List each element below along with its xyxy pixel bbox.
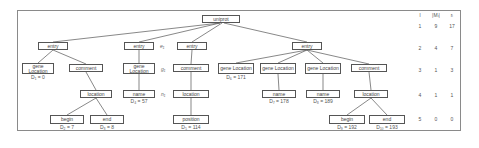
- tree-node-loc1: location: [80, 90, 112, 98]
- node-side-label: g₁: [161, 66, 165, 72]
- tree-node-e3: entry: [177, 42, 207, 50]
- table-cell: 7: [444, 45, 460, 51]
- tree-node-n1: name: [123, 90, 155, 98]
- tree-node-n2: name: [262, 90, 296, 98]
- node-label: comment: [76, 66, 97, 71]
- table-cell: 1: [412, 23, 428, 29]
- tree-node-e1: entry: [38, 42, 68, 50]
- node-label: name: [273, 92, 286, 97]
- tree-node-c2: comment: [173, 64, 209, 72]
- document-offset-label: D₁ = 0: [22, 75, 54, 80]
- node-label: comment: [359, 66, 380, 71]
- table-cell: 0: [444, 116, 460, 122]
- node-side-label: e₁: [160, 43, 164, 49]
- table-cell: 2: [412, 45, 428, 51]
- table-header: |Mₗ|: [428, 12, 444, 18]
- table-cell: 9: [428, 23, 444, 29]
- tree-node-loc2: location: [173, 90, 209, 98]
- node-label: name: [133, 92, 146, 97]
- tree-node-b1: begin: [50, 115, 84, 124]
- tree-node-loc3: location: [354, 90, 388, 98]
- tree-node-c3: comment: [351, 64, 387, 72]
- tree-node-gl3: gene Location: [218, 63, 254, 74]
- node-label: entry: [133, 44, 144, 49]
- node-label: entry: [186, 44, 197, 49]
- document-offset-label: D₇ = 178: [262, 99, 296, 104]
- tree-node-root: uniprot: [202, 15, 240, 23]
- node-label: location: [87, 92, 104, 97]
- node-label: position: [182, 117, 199, 122]
- document-offset-label: D₉ = 192: [329, 125, 365, 130]
- table-header: l: [412, 12, 428, 18]
- table-cell: 0: [428, 116, 444, 122]
- table-cell: 1: [428, 92, 444, 98]
- table-cell: 1: [428, 67, 444, 73]
- node-label: location: [182, 92, 199, 97]
- node-label: location: [362, 92, 379, 97]
- node-label: entry: [47, 44, 58, 49]
- document-offset-label: D₁₀ = 193: [369, 125, 405, 130]
- tree-node-gl5: gene Location: [305, 63, 341, 74]
- table-cell: 17: [444, 23, 460, 29]
- document-offset-label: D₅ = 114: [173, 125, 209, 130]
- table-cell: 3: [444, 67, 460, 73]
- node-label: gene Location: [307, 66, 338, 71]
- node-label: entry: [301, 44, 312, 49]
- document-offset-label: D₂ = 7: [50, 125, 84, 130]
- tree-node-gl2: gene Location: [123, 63, 155, 74]
- node-label: begin: [61, 117, 73, 122]
- node-label: gene Location: [262, 66, 293, 71]
- tree-node-end1: end: [90, 115, 124, 124]
- tree-node-c1: comment: [69, 64, 103, 72]
- tree-node-b3: begin: [329, 115, 365, 124]
- node-label: end: [383, 117, 391, 122]
- tree-node-gl1: gene Location: [22, 63, 54, 74]
- table-cell: 4: [428, 45, 444, 51]
- tree-node-e4: entry: [292, 42, 322, 50]
- table-header: rₗ: [444, 12, 460, 18]
- table-cell: 5: [412, 116, 428, 122]
- table-cell: 3: [412, 67, 428, 73]
- node-label: uniprot: [213, 17, 228, 22]
- tree-node-pos: position: [173, 115, 209, 124]
- level-table: l |Mₗ| rₗ 1 9 17 2 4 7 3 1 3 4 1 1 5 0 0: [412, 12, 462, 122]
- node-label: end: [103, 117, 111, 122]
- table-cell: 1: [444, 92, 460, 98]
- node-label: gene Location: [220, 66, 251, 71]
- table-cell: 4: [412, 92, 428, 98]
- document-offset-label: D₄ = 57: [123, 99, 155, 104]
- node-label: begin: [341, 117, 353, 122]
- node-label: name: [317, 92, 330, 97]
- document-offset-label: D₈ = 189: [306, 99, 340, 104]
- document-offset-label: D₃ = 8: [90, 125, 124, 130]
- tree-node-end3: end: [369, 115, 405, 124]
- node-label: gene Location: [23, 64, 53, 74]
- tree-node-e2: entry: [124, 42, 154, 50]
- node-label: comment: [181, 66, 202, 71]
- document-offset-label: D₆ = 171: [218, 75, 254, 80]
- tree-node-gl4: gene Location: [260, 63, 296, 74]
- node-label: gene Location: [124, 64, 154, 74]
- node-side-label: n₁: [161, 91, 165, 97]
- tree-node-n3: name: [306, 90, 340, 98]
